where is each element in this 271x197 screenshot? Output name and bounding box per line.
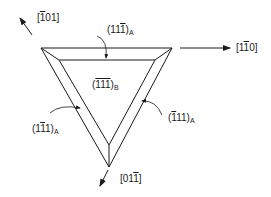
pointer-right [142, 101, 162, 115]
arrow-down [100, 170, 108, 186]
direction-arrows [20, 18, 230, 186]
crystal-diagram [0, 0, 271, 197]
inner-triangle [59, 60, 155, 145]
face-label-left: (111)A [32, 124, 59, 137]
pointer-top [97, 36, 106, 58]
arrow-up-left [20, 18, 32, 35]
face-label-top: (111)A [107, 25, 134, 38]
direction-label-down: [011] [120, 174, 142, 184]
face-label-right: (111)A [168, 113, 195, 126]
direction-label-right: [110] [236, 43, 258, 53]
face-label-center: (111)B [92, 80, 119, 93]
direction-label-up-left: [101] [37, 13, 59, 23]
